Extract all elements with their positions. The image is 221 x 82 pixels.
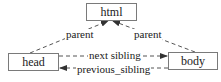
edge-label-next-sibling: next sibling — [88, 50, 142, 61]
node-html-label: html — [100, 6, 122, 18]
node-html: html — [86, 3, 137, 21]
edge-label-head-parent: parent — [65, 29, 94, 40]
node-body: body — [168, 52, 218, 70]
edge-label-previous-sibling: previous_sibling — [76, 64, 151, 75]
node-body-label: body — [181, 55, 205, 67]
edge-label-body-parent: parent — [133, 29, 162, 40]
dom-relationship-diagram: html head body parent parent next siblin… — [0, 0, 221, 82]
node-head-label: head — [22, 56, 45, 68]
node-head: head — [8, 53, 59, 71]
